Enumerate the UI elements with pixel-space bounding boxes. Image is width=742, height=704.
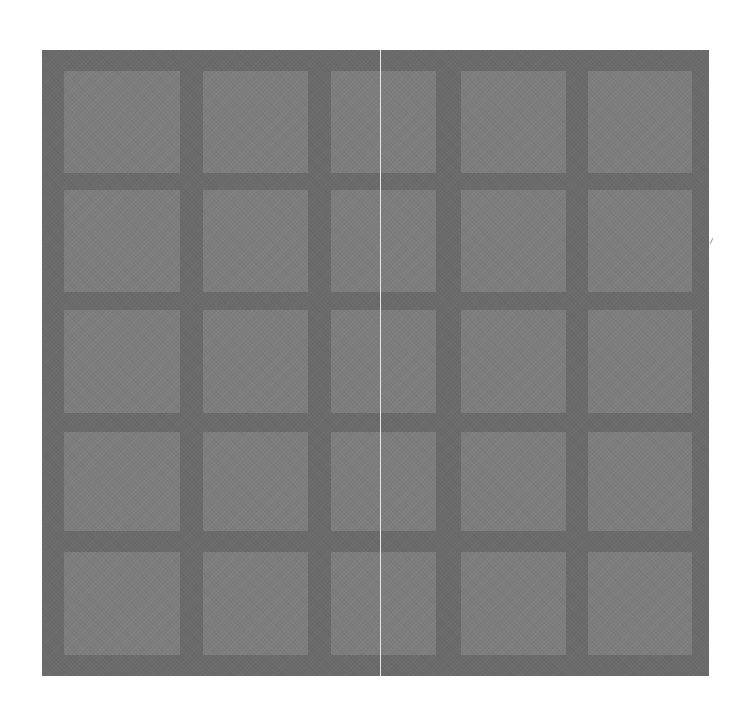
grid-tile <box>461 432 566 531</box>
grid-tile <box>203 71 308 173</box>
grid-tile <box>588 71 692 173</box>
grid-tile <box>461 552 566 655</box>
grid-tile <box>64 310 180 413</box>
grid-tile <box>203 190 308 292</box>
vertical-seam-line <box>380 50 381 676</box>
stray-mark <box>710 238 713 244</box>
grid-tile <box>203 432 308 531</box>
grid-tile <box>588 552 692 655</box>
grid-tile <box>461 310 566 413</box>
grid-tile <box>64 71 180 173</box>
grid-tile <box>461 71 566 173</box>
grid-tile <box>331 310 436 413</box>
grid-tile <box>588 190 692 292</box>
grid-tile <box>203 310 308 413</box>
grid-tile <box>331 190 436 292</box>
grid-tile <box>64 190 180 292</box>
grid-tile <box>461 190 566 292</box>
grid-tile <box>64 552 180 655</box>
grid-tile <box>203 552 308 655</box>
grid-tile <box>331 71 436 173</box>
grid-tile <box>331 432 436 531</box>
grid-tile <box>64 432 180 531</box>
grid-tile <box>331 552 436 655</box>
grid-tile <box>588 310 692 413</box>
grid-tile <box>588 432 692 531</box>
